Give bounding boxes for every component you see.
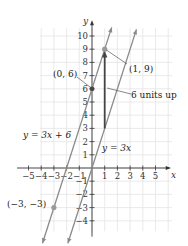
line-arrow-down-icon [67, 238, 71, 243]
x-tick-label: −5 [22, 171, 35, 181]
y-tick-label: −3 [75, 203, 88, 213]
line-y-3x [68, 29, 137, 243]
label-line-y-3x: y = 3x [101, 143, 131, 153]
label-point-neg3-neg3: (−3, −3) [7, 199, 46, 209]
x-axis-label: x [171, 170, 176, 180]
y-tick-label: −4 [75, 216, 88, 226]
y-tick-label: 1 [83, 150, 88, 160]
coordinate-graph: xy −5−4−3−2−112345−4−3−2−112345678910 (0… [0, 0, 188, 246]
point-marker [102, 47, 107, 52]
y-tick-label: 9 [83, 44, 88, 54]
label-point-0-6: (0, 6) [53, 69, 77, 79]
x-tick-label: 5 [153, 171, 158, 181]
x-tick-label: 2 [115, 171, 120, 181]
y-axis-arrow-icon [90, 20, 94, 25]
leader-1-9 [107, 50, 127, 64]
y-tick-label: 2 [83, 137, 88, 147]
x-tick-label: −3 [48, 171, 61, 181]
x-tick-label: 3 [127, 171, 132, 181]
point-marker [51, 205, 56, 210]
label-6-units-up: 6 units up [131, 90, 177, 100]
y-tick-label: 10 [77, 31, 88, 41]
x-tick-label: 1 [102, 171, 107, 181]
y-tick-label: 7 [83, 71, 88, 81]
line-arrow-up-icon [133, 29, 137, 34]
y-tick-label: 3 [83, 123, 88, 133]
y-axis-label: y [82, 16, 89, 26]
x-tick-label: −2 [60, 171, 73, 181]
label-line-y-3x-plus-6: y = 3x + 6 [22, 130, 71, 140]
line-arrow-down-icon [42, 238, 46, 243]
line-arrow-up-icon [108, 27, 112, 32]
y-tick-label: 8 [83, 57, 88, 67]
x-tick-label: 4 [140, 171, 145, 181]
label-point-1-9: (1, 9) [129, 64, 153, 74]
x-tick-label: −4 [35, 171, 48, 181]
